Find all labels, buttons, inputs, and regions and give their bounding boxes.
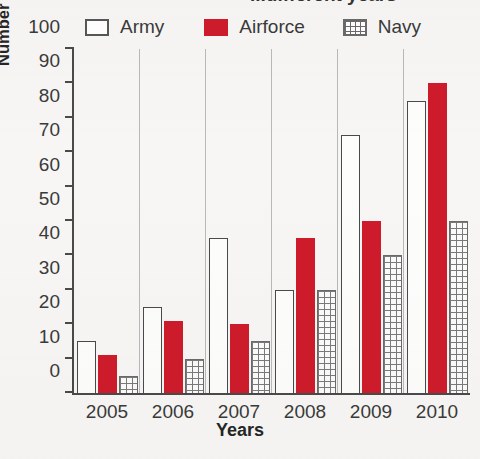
legend-label-navy: Navy <box>378 16 421 38</box>
legend-label-airforce: Airforce <box>239 16 304 38</box>
bar-airforce-2006[interactable] <box>164 321 183 393</box>
bar-airforce-2009[interactable] <box>362 221 381 393</box>
chart-title: ...different years <box>250 0 480 6</box>
bar-army-2006[interactable] <box>143 307 162 393</box>
bar-navy-2008[interactable] <box>317 290 336 393</box>
y-axis-tick <box>65 116 74 118</box>
y-axis-tick-label: 60 <box>24 154 60 176</box>
y-axis-tick <box>65 322 74 324</box>
bar-navy-2009[interactable] <box>383 255 402 393</box>
y-axis-tick <box>65 185 74 187</box>
y-axis-tick-label: 30 <box>24 257 60 279</box>
y-axis-title-main: Number of soldiers recruited <box>0 0 12 66</box>
bar-army-2010[interactable] <box>407 101 426 393</box>
y-axis-tick-label: 20 <box>24 291 60 313</box>
bar-army-2008[interactable] <box>275 290 294 393</box>
bar-airforce-2007[interactable] <box>230 324 249 393</box>
y-axis-tick-label: 100 <box>24 16 60 38</box>
y-axis-tick <box>65 81 74 83</box>
bar-army-2009[interactable] <box>341 135 360 393</box>
bar-group: 2009 <box>338 49 404 393</box>
y-axis-tick-label: 80 <box>24 85 60 107</box>
bar-group: 2006 <box>140 49 206 393</box>
bar-navy-2005[interactable] <box>119 376 138 393</box>
x-axis-line <box>72 393 470 395</box>
y-axis-tick-label: 90 <box>24 50 60 72</box>
y-axis-tick-label: 50 <box>24 188 60 210</box>
y-axis-tick-label: 40 <box>24 222 60 244</box>
bar-airforce-2010[interactable] <box>428 83 447 393</box>
bar-group: 2010 <box>404 49 470 393</box>
y-axis-tick <box>65 357 74 359</box>
bar-army-2005[interactable] <box>77 341 96 393</box>
y-axis-tick <box>65 150 74 152</box>
bar-group: 2008 <box>272 49 338 393</box>
bar-chart: ...different years Army Airforce Navy Nu… <box>0 0 480 459</box>
y-axis-tick <box>65 219 74 221</box>
empty-square-swatch-icon <box>85 19 109 36</box>
bar-group: 2005 <box>74 49 140 393</box>
bar-army-2007[interactable] <box>209 238 228 393</box>
y-axis-tick <box>65 391 74 393</box>
legend-item-airforce[interactable]: Airforce <box>204 16 304 38</box>
bar-airforce-2005[interactable] <box>98 355 117 393</box>
red-square-swatch-icon <box>204 19 228 36</box>
grid-square-swatch-icon <box>343 19 367 36</box>
chart-legend: Army Airforce Navy <box>85 14 475 40</box>
y-axis-title: Number of soldiers recruited (in thousan… <box>0 0 13 66</box>
y-axis-tick <box>65 47 74 49</box>
legend-item-army[interactable]: Army <box>85 16 164 38</box>
y-axis-tick-label: 10 <box>24 326 60 348</box>
y-axis-tick <box>65 253 74 255</box>
y-axis-tick-label: 70 <box>24 119 60 141</box>
y-axis-tick <box>65 288 74 290</box>
bar-navy-2006[interactable] <box>185 359 204 393</box>
y-axis-tick-label: 0 <box>24 360 60 382</box>
bar-airforce-2008[interactable] <box>296 238 315 393</box>
bar-navy-2007[interactable] <box>251 341 270 393</box>
bar-navy-2010[interactable] <box>449 221 468 393</box>
legend-label-army: Army <box>120 16 164 38</box>
bar-groups: 200520062007200820092010 <box>74 49 470 393</box>
x-axis-title: Years <box>0 420 480 441</box>
bar-group: 2007 <box>206 49 272 393</box>
legend-item-navy[interactable]: Navy <box>343 16 421 38</box>
plot-area: 0102030405060708090100 20052006200720082… <box>72 49 470 395</box>
